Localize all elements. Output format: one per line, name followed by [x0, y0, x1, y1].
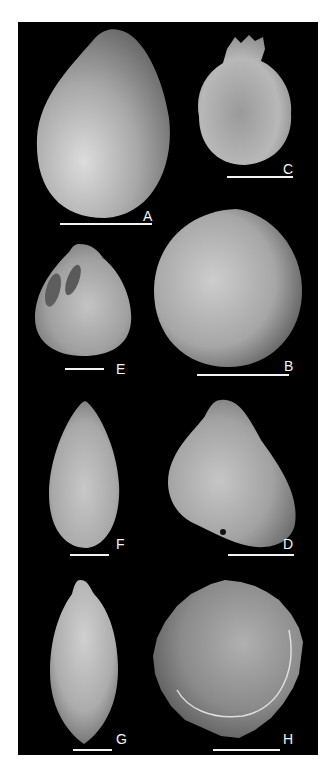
panel-label-a: A: [143, 209, 152, 223]
scale-bar-d: [228, 554, 294, 556]
panel-label-c: C: [283, 162, 293, 176]
figure-plate: A C: [18, 22, 318, 755]
panel-label-g: G: [116, 732, 127, 746]
scale-bar-e: [65, 368, 104, 370]
panel-label-f: F: [116, 537, 125, 551]
specimen-h-image: [151, 580, 305, 740]
scale-bar-a: [60, 223, 152, 225]
scale-bar-h: [213, 749, 280, 751]
specimen-c-image: [193, 35, 295, 167]
specimen-f-image: [47, 400, 121, 550]
specimen-a-image: [33, 28, 173, 220]
specimen-e-image: [33, 242, 133, 358]
panel-label-b: B: [284, 359, 293, 373]
scale-bar-g: [73, 749, 112, 751]
scale-bar-c: [227, 176, 293, 178]
specimen-d-image: [165, 398, 303, 550]
panel-label-e: E: [116, 362, 125, 376]
panel-label-d: D: [283, 537, 293, 551]
specimen-b-image: [152, 207, 304, 369]
scale-bar-f: [70, 554, 109, 556]
scale-bar-b: [197, 374, 289, 376]
specimen-g-image: [48, 580, 120, 746]
panel-label-h: H: [283, 732, 293, 746]
